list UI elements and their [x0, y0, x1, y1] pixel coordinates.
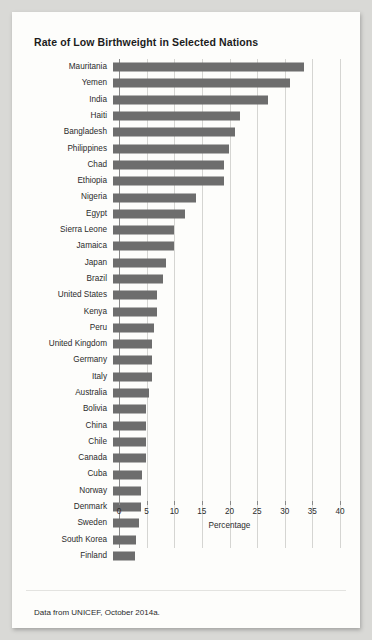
tick-label-25: 25	[253, 507, 262, 516]
bar	[113, 209, 185, 218]
bar	[113, 144, 229, 153]
bar-row: Peru	[12, 320, 360, 336]
category-label: Chile	[12, 438, 113, 446]
bar	[113, 437, 146, 446]
bar-cell	[113, 336, 360, 352]
bar-cell	[113, 271, 360, 287]
bar-row: Sierra Leone	[12, 222, 360, 238]
bar-cell	[113, 59, 360, 75]
bar-cell	[113, 75, 360, 91]
category-label: Egypt	[12, 210, 113, 218]
bar-cell	[113, 92, 360, 108]
category-label: Brazil	[12, 275, 113, 283]
category-label: United Kingdom	[12, 340, 113, 348]
caption-divider	[26, 590, 346, 591]
bar-row: Philippines	[12, 140, 360, 156]
category-label: Denmark	[12, 503, 113, 511]
bar-cell	[113, 222, 360, 238]
tick-mark-20	[230, 501, 231, 505]
tick-mark-10	[174, 501, 175, 505]
bar-row: Cuba	[12, 466, 360, 482]
category-label: Jamaica	[12, 242, 113, 250]
category-label: Sweden	[12, 519, 113, 527]
bar-row: Kenya	[12, 303, 360, 319]
bar-cell	[113, 173, 360, 189]
x-axis: 0510152025303540 Percentage	[119, 501, 340, 547]
bar-row: Nigeria	[12, 189, 360, 205]
bar-cell	[113, 238, 360, 254]
bar	[113, 372, 152, 381]
bar-cell	[113, 189, 360, 205]
category-label: Yemen	[12, 79, 113, 87]
bar	[113, 95, 268, 104]
category-label: Philippines	[12, 145, 113, 153]
bar-cell	[113, 303, 360, 319]
bar-cell	[113, 157, 360, 173]
bar	[113, 389, 149, 398]
bar-cell	[113, 369, 360, 385]
bar-cell	[113, 206, 360, 222]
category-label: Kenya	[12, 308, 113, 316]
bar	[113, 454, 146, 463]
bar-row: Yemen	[12, 75, 360, 91]
plot-area: MauritaniaYemenIndiaHaitiBangladeshPhili…	[12, 59, 360, 559]
category-label: Australia	[12, 389, 113, 397]
bar-cell	[113, 255, 360, 271]
bar-rows: MauritaniaYemenIndiaHaitiBangladeshPhili…	[12, 59, 360, 564]
category-label: India	[12, 96, 113, 104]
bar	[113, 323, 154, 332]
bar-cell	[113, 124, 360, 140]
category-label: Germany	[12, 356, 113, 364]
bar-cell	[113, 385, 360, 401]
bar	[113, 470, 142, 479]
category-label: Peru	[12, 324, 113, 332]
tick-mark-35	[312, 501, 313, 505]
bar-row: Ethiopia	[12, 173, 360, 189]
tick-label-0: 0	[117, 507, 122, 516]
category-label: Chad	[12, 161, 113, 169]
figure-caption: Data from UNICEF, October 2014a.	[34, 608, 160, 617]
chart-title: Rate of Low Birthweight in Selected Nati…	[34, 36, 258, 48]
bar	[113, 307, 157, 316]
category-label: China	[12, 422, 113, 430]
bar-cell	[113, 548, 360, 564]
bar-row: Australia	[12, 385, 360, 401]
bar-row: Jamaica	[12, 238, 360, 254]
bar	[113, 552, 135, 561]
tick-label-30: 30	[280, 507, 289, 516]
bar-row: India	[12, 92, 360, 108]
bar-cell	[113, 108, 360, 124]
bar	[113, 258, 166, 267]
bar-row: Norway	[12, 483, 360, 499]
category-label: Cuba	[12, 470, 113, 478]
bar	[113, 177, 224, 186]
tick-mark-15	[202, 501, 203, 505]
category-label: Haiti	[12, 112, 113, 120]
category-label: Bolivia	[12, 405, 113, 413]
bar-row: Germany	[12, 352, 360, 368]
bar	[113, 486, 141, 495]
category-label: Norway	[12, 487, 113, 495]
bar	[113, 405, 146, 414]
bar-cell	[113, 418, 360, 434]
bar-row: Japan	[12, 255, 360, 271]
bar	[113, 421, 146, 430]
bar	[113, 112, 240, 121]
figure-card: Rate of Low Birthweight in Selected Nati…	[12, 12, 360, 628]
tick-label-10: 10	[170, 507, 179, 516]
bar-row: Bangladesh	[12, 124, 360, 140]
bar	[113, 193, 196, 202]
x-axis-label: Percentage	[119, 521, 340, 530]
bar	[113, 242, 174, 251]
bar-row: Finland	[12, 548, 360, 564]
bar-cell	[113, 401, 360, 417]
tick-mark-25	[257, 501, 258, 505]
category-label: United States	[12, 291, 113, 299]
bar	[113, 356, 152, 365]
bar	[113, 226, 174, 235]
tick-label-15: 15	[197, 507, 206, 516]
bar	[113, 160, 224, 169]
category-label: Sierra Leone	[12, 226, 113, 234]
bar-cell	[113, 483, 360, 499]
category-label: Italy	[12, 373, 113, 381]
